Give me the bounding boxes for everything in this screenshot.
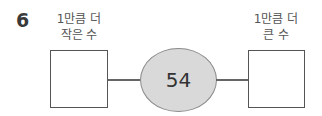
right-label-line2: 큰 수 xyxy=(241,27,311,43)
right-connector-line xyxy=(216,79,248,81)
left-label-line2: 작은 수 xyxy=(44,27,114,43)
center-number: 54 xyxy=(166,68,191,92)
smaller-number-answer-box[interactable] xyxy=(50,50,108,108)
right-label-line1: 1만큼 더 xyxy=(241,11,311,27)
right-label: 1만큼 더 큰 수 xyxy=(241,11,311,43)
left-label-line1: 1만큼 더 xyxy=(44,11,114,27)
problem-number: 6 xyxy=(16,9,29,31)
left-label: 1만큼 더 작은 수 xyxy=(44,11,114,43)
larger-number-answer-box[interactable] xyxy=(248,50,305,108)
center-number-ellipse: 54 xyxy=(140,48,217,112)
left-connector-line xyxy=(108,79,141,81)
